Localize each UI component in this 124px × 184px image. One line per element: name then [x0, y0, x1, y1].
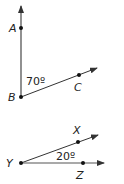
- label-x: X: [72, 124, 81, 137]
- angle-label-20: 20º: [56, 150, 75, 163]
- label-b: B: [8, 91, 16, 104]
- label-y: Y: [6, 157, 14, 170]
- point-y: [19, 161, 23, 165]
- point-x: [76, 140, 80, 144]
- point-a: [19, 26, 23, 30]
- angle-diagram: A B C 70º X Y Z 20º: [0, 0, 124, 184]
- point-c: [77, 73, 81, 77]
- label-a: A: [8, 22, 17, 35]
- point-b: [19, 95, 23, 99]
- label-z: Z: [75, 169, 84, 182]
- point-z: [81, 161, 85, 165]
- label-c: C: [74, 81, 82, 94]
- figure-angle-abc: A B C 70º: [8, 6, 97, 104]
- angle-label-70: 70º: [26, 75, 45, 88]
- figure-angle-xyz: X Y Z 20º: [6, 124, 104, 182]
